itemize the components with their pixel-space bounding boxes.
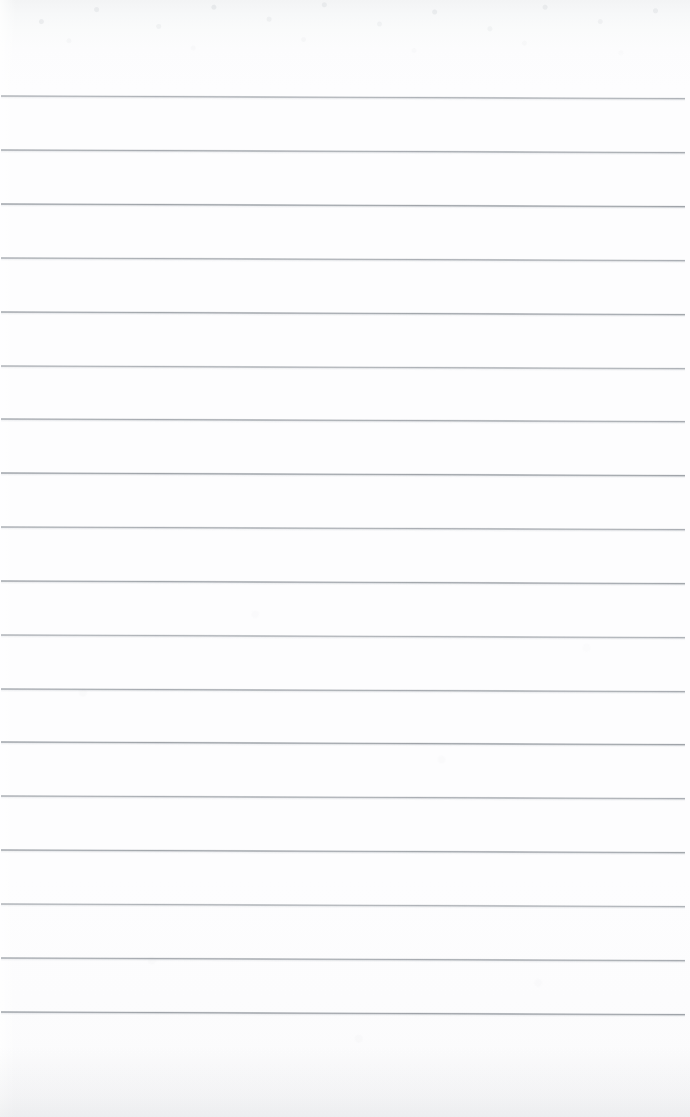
ruled-line [1, 95, 685, 100]
ruled-lines-group [0, 0, 690, 1117]
ruled-line [1, 580, 685, 585]
ruled-line [1, 634, 685, 639]
ruled-line [1, 365, 685, 370]
ruled-line [1, 957, 685, 962]
ruled-line [1, 741, 685, 746]
ruled-line [1, 257, 685, 262]
ruled-line [1, 903, 685, 908]
ruled-line [1, 795, 685, 800]
ruled-line [1, 1011, 685, 1016]
ruled-line [1, 311, 685, 316]
ruled-line [1, 526, 685, 531]
ruled-line [1, 149, 685, 154]
ruled-line [1, 688, 685, 693]
scanned-page [0, 0, 690, 1117]
ruled-line [1, 203, 685, 208]
ruled-line [1, 849, 685, 854]
ruled-line [1, 472, 685, 477]
ruled-line [1, 418, 685, 423]
